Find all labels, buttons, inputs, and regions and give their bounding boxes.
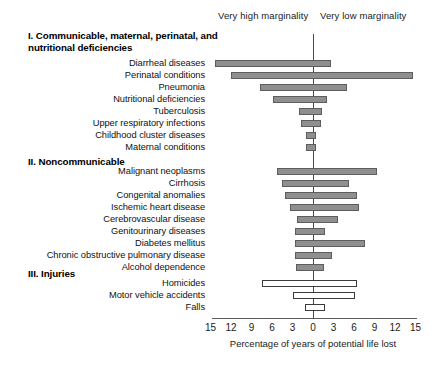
bar-congenital-anomalies: [285, 192, 357, 199]
x-tick-label: 9: [249, 322, 255, 333]
bar-perinatal-conditions: [231, 72, 413, 79]
x-tick-label: 6: [351, 322, 357, 333]
row-label: Chronic obstructive pulmonary disease: [47, 250, 205, 260]
bar-pneumonia: [260, 84, 347, 91]
row-label: Congenital anomalies: [117, 190, 205, 200]
x-tick-label: 0: [310, 322, 316, 333]
bar-nutritional-deficiencies: [273, 96, 328, 103]
bar-homicides: [262, 280, 357, 287]
bar-cirrhosis: [282, 180, 349, 187]
row-label: Perinatal conditions: [125, 70, 205, 80]
bar-motor-vehicle-accidents: [293, 292, 356, 299]
legend-label-very-low-marginality: Very low marginality: [320, 10, 406, 21]
row-label: Nutritional deficiencies: [113, 94, 205, 104]
row-label: Falls: [186, 302, 205, 312]
x-tick-label: 15: [205, 322, 216, 333]
plot-area: 151296303691215 Percentage of years of p…: [0, 0, 446, 370]
bar-maternal-conditions: [306, 144, 316, 151]
row-label: Pneumonia: [158, 82, 205, 92]
bar-childhood-cluster-diseases: [306, 132, 316, 139]
row-label: Cirrhosis: [169, 178, 205, 188]
row-label: Malignant neoplasms: [118, 166, 205, 176]
row-label: Tuberculosis: [153, 106, 205, 116]
row-label: Motor vehicle accidents: [109, 290, 205, 300]
bar-falls: [305, 304, 326, 311]
x-tick-label: 9: [372, 322, 378, 333]
x-tick-label: 12: [225, 322, 236, 333]
bar-tuberculosis: [299, 108, 322, 115]
x-tick-label: 3: [290, 322, 296, 333]
bar-diarrheal-diseases: [215, 60, 332, 67]
x-tick-label: 15: [410, 322, 421, 333]
bar-malignant-neoplasms: [277, 168, 376, 175]
bar-genitourinary-diseases: [295, 228, 326, 235]
x-tick-label: 6: [269, 322, 275, 333]
row-label: Diabetes mellitus: [135, 238, 205, 248]
row-label: Alcohol dependence: [122, 262, 205, 272]
row-label: Childhood cluster diseases: [95, 130, 205, 140]
row-label: Diarrheal diseases: [129, 58, 205, 68]
chart-container: Very high marginality Very low marginali…: [0, 0, 446, 370]
zero-axis-line: [313, 34, 314, 318]
bar-ischemic-heart-disease: [290, 204, 358, 211]
row-label: Upper respiratory infections: [93, 118, 205, 128]
row-label: Homicides: [162, 278, 205, 288]
bar-cerebrovascular-disease: [297, 216, 338, 223]
bar-upper-respiratory-infections: [301, 120, 322, 127]
row-label: Cerebrovascular disease: [103, 214, 205, 224]
section-heading-1: I. Communicable, maternal, perinatal, an…: [28, 30, 218, 53]
x-axis-title: Percentage of years of potential life lo…: [230, 338, 396, 349]
bar-alcohol-dependence: [296, 264, 324, 271]
x-tick-label: 12: [389, 322, 400, 333]
row-label: Ischemic heart disease: [111, 202, 205, 212]
bar-diabetes-mellitus: [295, 240, 365, 247]
row-label: Maternal conditions: [125, 142, 205, 152]
bar-chronic-obstructive-pulmonary-disease: [295, 252, 333, 259]
legend-label-very-high-marginality: Very high marginality: [218, 10, 308, 21]
x-axis-line: [212, 318, 417, 319]
row-label: Genitourinary diseases: [111, 226, 205, 236]
x-tick-label: 3: [331, 322, 337, 333]
